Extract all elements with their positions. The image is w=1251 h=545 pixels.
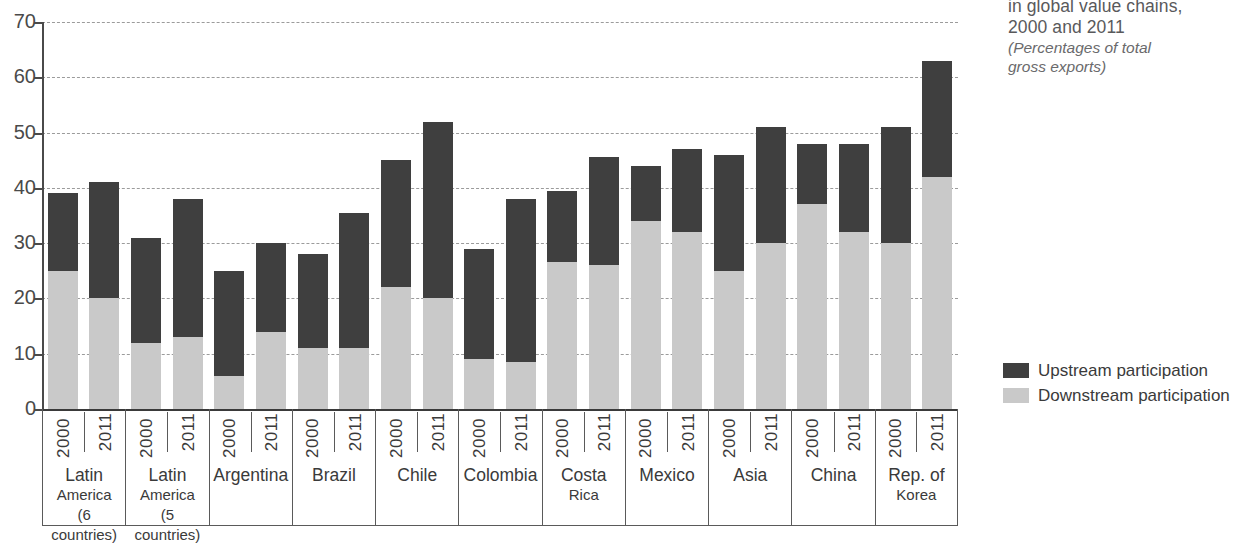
- x-axis-year-cell: 2000: [876, 412, 917, 464]
- x-axis-category-label: Chile: [376, 465, 458, 485]
- bar-segment-downstream: [423, 298, 453, 409]
- y-axis-tick-label: 40: [2, 176, 36, 199]
- x-axis-year-cell: 2011: [417, 412, 459, 452]
- x-axis-category-line: Latin: [65, 465, 103, 485]
- bar-segment-upstream: [381, 160, 411, 287]
- bar-segment-upstream: [464, 249, 494, 360]
- x-axis-year-label: 2011: [928, 413, 948, 452]
- x-axis-year-cell: 2000: [210, 412, 251, 464]
- x-axis-year-cell: 2000: [126, 412, 167, 464]
- x-axis-category-label: Mexico: [626, 465, 708, 485]
- x-axis-year-cell: 2000: [293, 412, 334, 464]
- x-axis-category-line: (5 countries): [126, 505, 208, 545]
- x-axis-category-line: Chile: [397, 465, 437, 485]
- bar-segment-upstream: [672, 149, 702, 232]
- legend-swatch-upstream: [1003, 363, 1029, 378]
- x-axis-group: 20002011Colombia: [458, 409, 541, 526]
- x-axis-group: 20002011Mexico: [625, 409, 708, 526]
- x-axis-group: 20002011Brazil: [292, 409, 375, 526]
- x-axis-category-label: Brazil: [293, 465, 375, 485]
- x-axis-year-cell: 2011: [167, 412, 209, 452]
- bar-segment-downstream: [381, 287, 411, 409]
- x-axis-year-cell: 2011: [84, 412, 126, 452]
- x-axis-category-line: Colombia: [464, 465, 538, 485]
- x-axis-group: 20002011Rep. ofKorea: [875, 409, 958, 526]
- bar-segment-downstream: [672, 232, 702, 409]
- x-axis-year-cell: 2011: [750, 412, 792, 452]
- bar-segment-downstream: [589, 265, 619, 409]
- bar-segment-upstream: [214, 271, 244, 376]
- x-axis-category-label: LatinAmerica(6 countries): [43, 465, 125, 545]
- x-axis-year-label: 2000: [636, 418, 656, 458]
- x-axis-year-cell: 2000: [792, 412, 833, 464]
- bar-segment-downstream: [298, 348, 328, 409]
- bar-chart-plot: 010203040506070 20002011LatinAmerica(6 c…: [0, 0, 980, 526]
- x-axis-group: 20002011LatinAmerica(6 countries): [42, 409, 125, 526]
- gridline: [42, 133, 958, 134]
- legend-label-downstream: Downstream participation: [1038, 386, 1230, 406]
- x-axis-year-label: 2011: [595, 413, 615, 452]
- bar-segment-downstream: [506, 362, 536, 409]
- bar-segment-downstream: [881, 243, 911, 409]
- bar-segment-upstream: [922, 61, 952, 177]
- x-axis-year-cell: 2000: [626, 412, 667, 464]
- x-axis-year-cell: 2000: [43, 412, 84, 464]
- x-axis-year-label: 2000: [387, 418, 407, 458]
- x-axis-year-label: 2011: [96, 413, 116, 452]
- chart-subtitle-line-2: gross exports): [1008, 57, 1248, 76]
- bar-mexico-2011: [672, 149, 702, 409]
- chart-title-line-2: 2000 and 2011: [1008, 17, 1248, 38]
- legend-swatch-downstream: [1003, 388, 1029, 403]
- x-axis-category-label: LatinAmerica(5 countries): [126, 465, 208, 545]
- x-axis-label-table: 20002011LatinAmerica(6 countries)2000201…: [42, 409, 958, 526]
- chart-title-line-1: in global value chains,: [1008, 0, 1248, 17]
- bar-argentina-2000: [214, 271, 244, 409]
- x-axis-group: 20002011China: [791, 409, 874, 526]
- bar-costa-rica-2011: [589, 157, 619, 409]
- bar-segment-upstream: [298, 254, 328, 348]
- x-axis-category-line: Brazil: [312, 465, 356, 485]
- x-axis-year-cell: 2011: [584, 412, 626, 452]
- x-axis-category-line: America: [43, 485, 125, 505]
- bar-segment-downstream: [131, 343, 161, 409]
- bar-chile-2011: [423, 122, 453, 409]
- bar-segment-upstream: [547, 191, 577, 263]
- x-axis-year-label: 2000: [803, 418, 823, 458]
- bar-segment-upstream: [423, 122, 453, 299]
- y-axis-tick-label: 50: [2, 121, 36, 144]
- bar-asia-2000: [714, 155, 744, 409]
- bar-segment-upstream: [839, 144, 869, 232]
- chart-subtitle-line-1: (Percentages of total: [1008, 38, 1248, 57]
- x-axis-category-label: Argentina: [210, 465, 292, 485]
- x-axis-year-cell: 2011: [500, 412, 542, 452]
- bar-latin-america-6-countries--2000: [48, 193, 78, 409]
- x-axis-group: 20002011CostaRica: [542, 409, 625, 526]
- x-axis-category-label: China: [792, 465, 874, 485]
- bar-rep-of-korea-2000: [881, 127, 911, 409]
- x-axis-year-label: 2000: [220, 418, 240, 458]
- x-axis-year-label: 2011: [845, 413, 865, 452]
- x-axis-category-line: China: [811, 465, 857, 485]
- x-axis-category-line: (6 countries): [43, 505, 125, 545]
- bar-segment-downstream: [631, 221, 661, 409]
- x-axis-year-label: 2011: [429, 413, 449, 452]
- x-axis-year-label: 2000: [886, 418, 906, 458]
- x-axis-year-label: 2011: [762, 413, 782, 452]
- bar-segment-upstream: [631, 166, 661, 221]
- chart-legend: Upstream participation Downstream partic…: [1003, 358, 1251, 408]
- bar-segment-upstream: [131, 238, 161, 343]
- bar-segment-downstream: [797, 204, 827, 409]
- x-axis-year-cell: 2011: [834, 412, 876, 452]
- bar-brazil-2000: [298, 254, 328, 409]
- x-axis-group: 20002011Argentina: [209, 409, 292, 526]
- x-axis-category-label: Rep. ofKorea: [876, 465, 957, 505]
- x-axis-category-label: Colombia: [459, 465, 541, 485]
- gridline: [42, 22, 958, 23]
- x-axis-group: 20002011LatinAmerica(5 countries): [125, 409, 208, 526]
- x-axis-year-label: 2000: [54, 418, 74, 458]
- y-axis-labels: 010203040506070: [0, 0, 36, 526]
- bar-segment-downstream: [464, 359, 494, 409]
- bar-segment-upstream: [756, 127, 786, 243]
- bar-segment-upstream: [881, 127, 911, 243]
